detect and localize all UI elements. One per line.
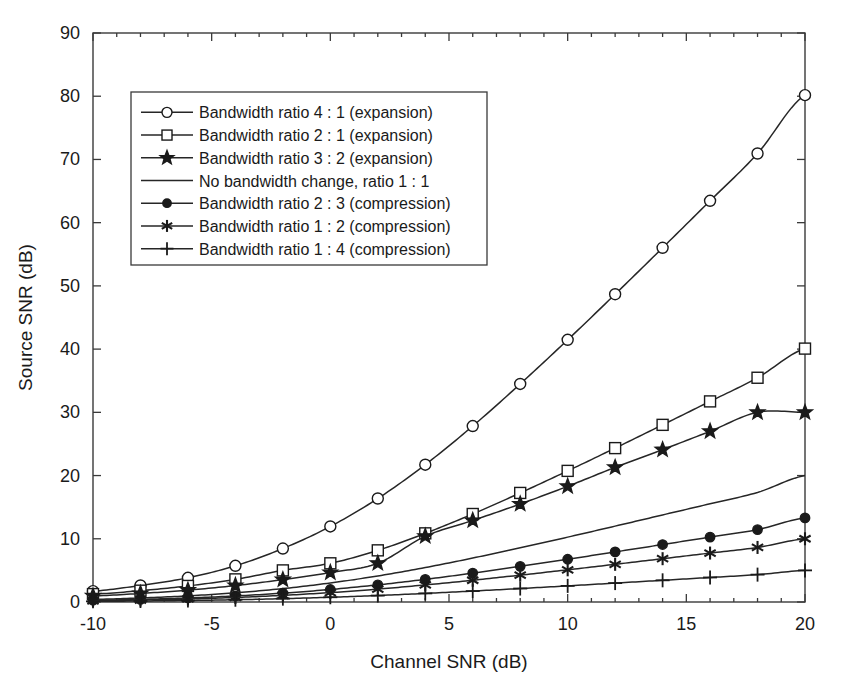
circle-open-marker: [277, 543, 288, 554]
x-axis-label: Channel SNR (dB): [370, 651, 527, 672]
y-tick-label: 90: [60, 23, 80, 43]
square-open-marker: [562, 465, 573, 476]
y-tick-label: 80: [60, 86, 80, 106]
circle-open-marker: [467, 421, 478, 432]
y-tick-label: 20: [60, 466, 80, 486]
square-open-marker: [610, 443, 621, 454]
series-2: [86, 405, 813, 602]
y-tick-label: 60: [60, 213, 80, 233]
circle-open-marker: [515, 378, 526, 389]
x-tick-label: 5: [444, 614, 454, 634]
y-axis-label: Source SNR (dB): [15, 244, 36, 391]
circle-filled-marker: [563, 555, 572, 564]
y-tick-label: 0: [70, 592, 80, 612]
x-tick-label: 0: [325, 614, 335, 634]
star-marker: [608, 460, 623, 474]
x-tick-label: -5: [204, 614, 220, 634]
circle-filled-marker: [610, 547, 619, 556]
x-tick-label: -10: [80, 614, 106, 634]
y-tick-label: 50: [60, 276, 80, 296]
series-line: [93, 539, 805, 601]
series-3: [93, 476, 805, 600]
star-marker: [703, 424, 718, 438]
y-tick-label: 70: [60, 149, 80, 169]
circle-filled-marker: [658, 540, 667, 549]
circle-open-marker: [562, 334, 573, 345]
legend-item-label: Bandwidth ratio 1 : 2 (compression): [199, 218, 451, 235]
y-tick-label: 30: [60, 402, 80, 422]
square-open-marker: [705, 396, 716, 407]
circle-filled-marker: [800, 513, 809, 522]
star-marker: [750, 405, 765, 419]
star-marker: [370, 556, 385, 570]
chart-canvas: 0102030405060708090 -10-505101520 Channe…: [0, 0, 842, 692]
y-tick-label: 10: [60, 529, 80, 549]
circle-open-marker: [800, 90, 811, 101]
star-marker: [655, 442, 670, 456]
square-open-marker: [657, 419, 668, 430]
square-open-marker: [162, 130, 172, 140]
chart-figure: 0102030405060708090 -10-505101520 Channe…: [0, 0, 842, 692]
x-tick-label: 15: [676, 614, 696, 634]
circle-filled-marker: [753, 525, 762, 534]
legend-item-label: Bandwidth ratio 2 : 1 (expansion): [199, 127, 433, 144]
circle-open-marker: [610, 289, 621, 300]
series-line: [93, 411, 805, 596]
circle-open-marker: [420, 459, 431, 470]
circle-open-marker: [325, 521, 336, 532]
circle-filled-marker: [705, 532, 714, 541]
x-tick-label: 10: [558, 614, 578, 634]
circle-filled-marker: [163, 199, 171, 207]
circle-open-marker: [230, 560, 241, 571]
star-marker: [560, 479, 575, 493]
x-tick-label: 20: [795, 614, 815, 634]
series-line: [93, 349, 805, 594]
square-open-marker: [800, 343, 811, 354]
circle-open-marker: [705, 195, 716, 206]
legend-item-label: Bandwidth ratio 2 : 3 (compression): [199, 195, 451, 212]
series-1: [88, 343, 811, 599]
y-tick-label: 40: [60, 339, 80, 359]
legend-item-label: Bandwidth ratio 4 : 1 (expansion): [199, 104, 433, 121]
circle-open-marker: [372, 493, 383, 504]
square-open-marker: [752, 372, 763, 383]
circle-open-marker: [657, 242, 668, 253]
legend-item-label: No bandwidth change, ratio 1 : 1: [199, 173, 429, 190]
legend-item-label: Bandwidth ratio 3 : 2 (expansion): [199, 150, 433, 167]
series-line: [93, 476, 805, 600]
circle-open-marker: [162, 107, 172, 117]
chart-legend: Bandwidth ratio 4 : 1 (expansion)Bandwid…: [131, 92, 487, 265]
circle-open-marker: [752, 148, 763, 159]
series-line: [93, 518, 805, 600]
legend-item-label: Bandwidth ratio 1 : 4 (compression): [199, 241, 451, 258]
